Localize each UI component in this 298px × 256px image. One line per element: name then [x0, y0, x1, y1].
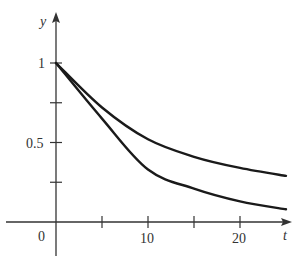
- x-axis-label: t: [283, 228, 288, 243]
- upper-curve: [56, 63, 286, 176]
- y-tick-label-1: 1: [38, 56, 45, 71]
- lower-curve: [56, 63, 286, 209]
- axes: [6, 12, 292, 256]
- y-axis-label: y: [38, 14, 47, 29]
- x-tick-label-10: 10: [140, 231, 154, 246]
- y-tick-label-0.5: 0.5: [26, 136, 44, 151]
- line-chart: y t 0 1 0.5 10 20: [0, 0, 298, 256]
- x-tick-label-20: 20: [232, 231, 246, 246]
- origin-label: 0: [38, 229, 45, 244]
- axis-labels: y t 0 1 0.5 10 20: [26, 14, 288, 246]
- curves: [56, 63, 286, 209]
